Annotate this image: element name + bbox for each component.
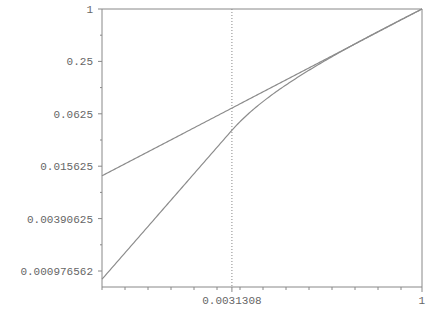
x-axis-labels: 0.00313081	[202, 295, 425, 307]
chart: 10.250.06250.0156250.003906250.000976562…	[0, 0, 435, 319]
axis-ticks	[98, 9, 422, 292]
x-tick-label: 1	[418, 295, 425, 307]
y-axis-labels: 10.250.06250.0156250.003906250.000976562	[20, 4, 93, 278]
x-tick-label: 0.0031308	[202, 295, 261, 307]
y-tick-label: 0.015625	[40, 161, 93, 173]
y-tick-label: 0.000976562	[20, 266, 93, 278]
y-tick-label: 0.0625	[53, 109, 93, 121]
y-tick-label: 0.00390625	[27, 214, 93, 226]
srgb-curve-line	[102, 9, 422, 279]
y-tick-label: 1	[86, 4, 93, 16]
y-tick-label: 0.25	[67, 56, 93, 68]
